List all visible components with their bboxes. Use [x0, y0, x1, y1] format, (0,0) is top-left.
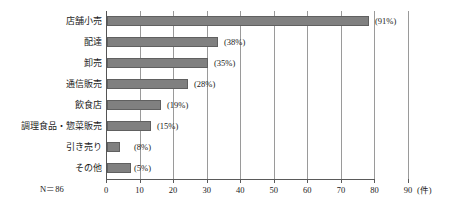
- xtick-label-90: 90: [404, 185, 413, 195]
- tick-80: [374, 179, 375, 183]
- xtick-label-70: 70: [337, 185, 346, 195]
- tick-10: [140, 179, 141, 183]
- bar-7: [107, 163, 131, 173]
- bar-3: [107, 79, 188, 89]
- category-label-6: 引き売り: [0, 137, 102, 157]
- category-label-2: 卸売: [0, 53, 102, 73]
- bar-value-4: (19%): [167, 95, 188, 115]
- category-label-5: 調理食品・惣菜販売: [0, 116, 102, 136]
- bar-0: [107, 16, 369, 26]
- bar-4: [107, 100, 161, 110]
- gridline-90: [408, 11, 409, 179]
- tick-90: [408, 179, 409, 183]
- gridline-50: [274, 11, 275, 179]
- category-label-3: 通信販売: [0, 74, 102, 94]
- bar-1: [107, 37, 218, 47]
- gridline-60: [307, 11, 308, 179]
- bar-6: [107, 142, 120, 152]
- bar-value-0: (91%): [375, 11, 396, 31]
- category-label-0: 店舗小売: [0, 11, 102, 31]
- bar-5: [107, 121, 151, 131]
- tick-30: [207, 179, 208, 183]
- category-label-4: 飲食店: [0, 95, 102, 115]
- xtick-label-50: 50: [270, 185, 279, 195]
- xtick-label-30: 30: [202, 185, 211, 195]
- tick-70: [341, 179, 342, 183]
- xtick-label-0: 0: [104, 185, 108, 195]
- xtick-label-20: 20: [169, 185, 178, 195]
- horizontal-bar-chart: 0 10 20 30 40 50 60 70 80 90 (件) N＝86 店舗…: [0, 0, 452, 215]
- tick-50: [274, 179, 275, 183]
- category-label-7: その他: [0, 158, 102, 178]
- bar-2: [107, 58, 208, 68]
- category-label-1: 配達: [0, 32, 102, 52]
- gridline-80: [374, 11, 375, 179]
- xtick-label-60: 60: [303, 185, 312, 195]
- tick-40: [240, 179, 241, 183]
- bar-value-7: (5%): [134, 158, 151, 178]
- x-axis-unit-label: (件): [417, 185, 432, 195]
- bar-value-5: (15%): [157, 116, 178, 136]
- sample-size-note: N＝86: [40, 184, 64, 195]
- xtick-label-10: 10: [135, 185, 144, 195]
- tick-20: [173, 179, 174, 183]
- xtick-label-40: 40: [236, 185, 245, 195]
- bar-value-1: (38%): [224, 32, 245, 52]
- gridline-70: [341, 11, 342, 179]
- tick-0: [106, 179, 107, 183]
- bar-value-6: (8%): [134, 137, 151, 157]
- tick-60: [307, 179, 308, 183]
- xtick-label-80: 80: [370, 185, 379, 195]
- bar-value-3: (28%): [194, 74, 215, 94]
- bar-value-2: (35%): [214, 53, 235, 73]
